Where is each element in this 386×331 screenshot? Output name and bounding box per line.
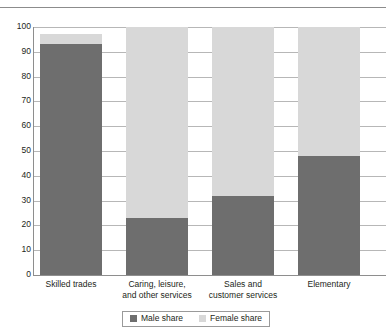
bar-segment-female <box>126 27 188 218</box>
x-axis-label: Sales andcustomer services <box>195 279 291 301</box>
y-tick-label: 20 <box>3 220 31 229</box>
y-tick-label: 0 <box>3 270 31 279</box>
bar-segment-female <box>40 34 102 44</box>
y-axis-line <box>33 27 34 275</box>
legend-item: Female share <box>199 314 262 323</box>
x-axis-label: Caring, leisure,and other services <box>109 279 205 301</box>
bar-segment-female <box>298 27 360 156</box>
bar-stack <box>212 27 274 275</box>
x-axis-label-line: and other services <box>109 290 205 301</box>
y-tick-label: 80 <box>3 72 31 81</box>
bar-segment-male <box>40 44 102 275</box>
y-tick-label: 60 <box>3 121 31 130</box>
x-axis-label-line: Caring, leisure, <box>109 279 205 290</box>
gridline-0 <box>33 275 386 276</box>
bar-segment-male <box>212 196 274 275</box>
y-tick-label: 50 <box>3 146 31 155</box>
chart-legend: Male shareFemale share <box>122 311 270 327</box>
legend-label: Male share <box>141 314 183 323</box>
x-axis-label: Elementary <box>281 279 377 290</box>
bar-segment-female <box>212 27 274 196</box>
male-swatch-icon <box>130 315 137 322</box>
stacked-bar-chart: 1009080706050403020100 Skilled tradesCar… <box>0 8 386 331</box>
y-tick-label: 30 <box>3 196 31 205</box>
bar-segment-male <box>126 218 188 275</box>
bar-stack <box>40 34 102 275</box>
legend-label: Female share <box>210 314 262 323</box>
bar-stack <box>126 27 188 275</box>
y-tick-label: 100 <box>3 22 31 31</box>
x-axis-label-line: Sales and <box>195 279 291 290</box>
x-axis-label: Skilled trades <box>23 279 119 290</box>
bar-segment-male <box>298 156 360 275</box>
female-swatch-icon <box>199 315 206 322</box>
x-axis-label-line: Elementary <box>281 279 377 290</box>
bar-stack <box>298 27 360 275</box>
y-tick-label: 90 <box>3 47 31 56</box>
legend-item: Male share <box>130 314 183 323</box>
y-tick-label: 70 <box>3 96 31 105</box>
y-tick-label: 40 <box>3 171 31 180</box>
y-tick-label: 10 <box>3 245 31 254</box>
cropped-title-band <box>0 0 386 7</box>
x-axis-label-line: customer services <box>195 290 291 301</box>
x-axis-label-line: Skilled trades <box>23 279 119 290</box>
